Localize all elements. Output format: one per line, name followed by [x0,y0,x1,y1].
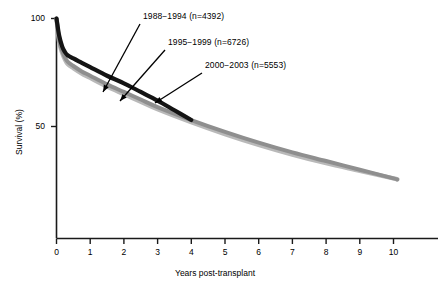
x-tick-label-5: 5 [215,247,235,257]
x-tick-label-10: 10 [384,247,404,257]
x-axis-title: Years post-transplant [175,268,255,278]
x-tick-label-2: 2 [114,247,134,257]
x-tick-label-8: 8 [316,247,336,257]
x-tick-label-4: 4 [181,247,201,257]
survival-chart-figure: 100 50 0 1 2 3 4 5 6 7 8 9 10 Years post… [0,0,448,288]
y-tick-label-100: 100 [19,13,45,23]
x-tick-label-3: 3 [148,247,168,257]
series-label-2000-2003: 2000−2003 (n=5553) [205,60,286,70]
x-tick-label-0: 0 [47,247,67,257]
y-axis-title: Survival (%) [14,109,24,155]
x-tick-label-7: 7 [282,247,302,257]
x-tick-label-6: 6 [249,247,269,257]
x-tick-marks [57,239,394,245]
x-tick-label-1: 1 [80,247,100,257]
series-label-1995-1999: 1995−1999 (n=6726) [168,37,249,47]
annotation-arrow-line-2 [155,73,202,103]
x-tick-label-9: 9 [350,247,370,257]
series-label-1988-1994: 1988−1994 (n=4392) [143,11,224,21]
